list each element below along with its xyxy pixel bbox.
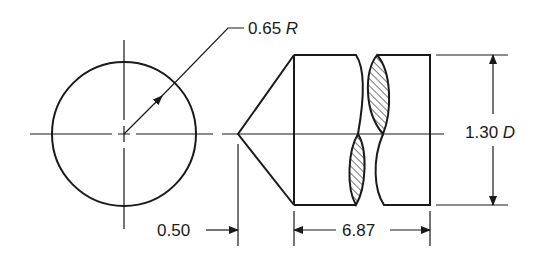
break-section-hatch-upper (368, 55, 389, 134)
side-view (238, 55, 444, 205)
break-section-hatch-lower (349, 134, 364, 205)
radius-unit: R (286, 19, 298, 38)
radius-leader-line (160, 28, 244, 98)
body-length-value: 6.87 (342, 221, 375, 240)
radius-dimension-label: 0.65 R (248, 20, 298, 37)
diameter-value: 1.30 (465, 123, 498, 142)
diameter-unit: D (503, 123, 515, 142)
radius-leader (124, 96, 162, 134)
diameter-dimension-label: 1.30 D (464, 124, 516, 141)
point-length-dimension-label: 0.50 (157, 222, 190, 239)
point-length-value: 0.50 (157, 221, 190, 240)
body-length-dimension-label: 6.87 (342, 222, 375, 239)
conical-point (238, 55, 294, 205)
end-view (30, 28, 244, 229)
radius-value: 0.65 (248, 19, 281, 38)
